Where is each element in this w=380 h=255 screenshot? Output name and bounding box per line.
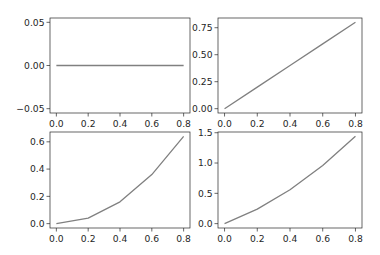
x-tick-label: 0.8 <box>176 233 191 244</box>
y-tick-label: 0.25 <box>192 76 213 87</box>
x-tick-label: 0.2 <box>81 233 96 244</box>
x-tick-label: 0.4 <box>113 233 128 244</box>
y-tick-label: 0.50 <box>192 49 213 60</box>
y-tick-label: 1.5 <box>198 127 213 138</box>
y-tick-label: −0.05 <box>16 103 44 114</box>
axes-frame <box>50 132 190 228</box>
x-tick-label: 0.2 <box>250 233 265 244</box>
x-tick-label: 0.8 <box>176 118 191 129</box>
figure: 0.00.20.40.60.8−0.050.000.05 0.00.20.40.… <box>0 0 380 255</box>
axes-frame <box>218 132 362 228</box>
y-tick-label: 0.00 <box>192 103 213 114</box>
y-tick-label: 0.2 <box>30 191 45 202</box>
x-tick-label: 0.6 <box>315 118 330 129</box>
y-tick-label: 1.0 <box>198 157 213 168</box>
data-line <box>225 22 356 108</box>
x-tick-label: 0.6 <box>315 233 330 244</box>
x-tick-label: 0.0 <box>49 233 64 244</box>
y-tick-label: 0.0 <box>198 218 213 229</box>
subplot-bottom-left: 0.00.20.40.60.80.00.20.40.6 <box>30 132 191 244</box>
x-tick-label: 0.4 <box>113 118 128 129</box>
subplot-bottom-right: 0.00.20.40.60.80.00.51.01.5 <box>198 127 363 243</box>
x-tick-label: 0.0 <box>49 118 64 129</box>
x-tick-label: 0.0 <box>217 118 232 129</box>
x-tick-label: 0.8 <box>348 118 363 129</box>
subplot-top-right: 0.00.20.40.60.80.000.250.500.75 <box>192 18 363 129</box>
x-tick-label: 0.2 <box>250 118 265 129</box>
x-tick-label: 0.2 <box>81 118 96 129</box>
x-tick-label: 0.4 <box>283 118 298 129</box>
y-tick-label: 0.0 <box>30 218 45 229</box>
subplot-top-left: 0.00.20.40.60.8−0.050.000.05 <box>16 17 191 129</box>
x-tick-label: 0.6 <box>145 233 160 244</box>
y-tick-label: 0.6 <box>30 136 45 147</box>
y-tick-label: 0.4 <box>30 163 45 174</box>
x-tick-label: 0.4 <box>283 233 298 244</box>
y-tick-label: 0.5 <box>198 188 213 199</box>
data-line <box>225 136 356 223</box>
x-tick-label: 0.8 <box>348 233 363 244</box>
y-tick-label: 0.00 <box>24 60 45 71</box>
y-tick-label: 0.05 <box>24 17 45 28</box>
x-tick-label: 0.6 <box>145 118 160 129</box>
data-line <box>56 136 183 223</box>
x-tick-label: 0.0 <box>217 233 232 244</box>
y-tick-label: 0.75 <box>192 22 213 33</box>
